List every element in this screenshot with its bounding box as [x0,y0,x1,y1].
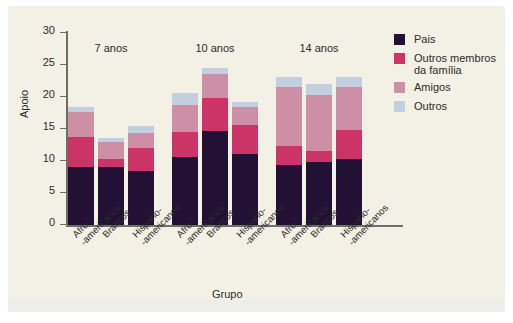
bar-segment [336,87,362,130]
bar-segment [276,146,302,165]
legend-label: Pais [414,33,506,45]
bar-stack [202,33,228,225]
y-axis-tick-label: 10 [43,152,55,164]
bar-segment [232,125,258,154]
y-axis-tick: 25 [60,64,67,65]
bar-stack [68,33,94,225]
legend-item: Amigos [394,81,506,95]
legend-item: Outros membrosda família [394,52,506,76]
legend-swatch [394,53,405,64]
bar-segment [202,98,228,131]
bar-segment [202,68,228,74]
y-axis-tick-label: 5 [49,184,55,196]
bar-segment [98,159,124,167]
figure-plate-shadow [8,300,505,312]
bar-stack [98,33,124,225]
y-axis-tick: 0 [60,224,67,225]
y-axis-title: Apoio [18,90,30,118]
bar-stack [172,33,198,225]
y-axis-tick-label: 25 [43,56,55,68]
bar-segment [98,142,124,159]
bar-segment [232,102,258,108]
bar-segment [276,77,302,87]
y-axis-tick-label: 30 [43,24,55,36]
bar-segment [276,87,302,146]
legend-label: Amigos [414,81,506,93]
y-axis-tick: 20 [60,96,67,97]
figure-container: Apoio Grupo 051015202530 7 anos10 anos14… [0,0,513,323]
y-axis-tick: 15 [60,128,67,129]
bar-segment [336,130,362,159]
bar-segment [128,126,154,133]
bar-segment [306,84,332,95]
bar-segment [172,105,198,133]
legend-swatch [394,34,405,45]
legend-label: Outros [414,100,506,112]
group-title: 7 anos [81,42,141,54]
plot-area: 051015202530 [67,33,397,225]
legend-item: Outros [394,100,506,114]
y-axis-tick-label: 15 [43,120,55,132]
bar-stack [276,33,302,225]
bar-segment [128,133,154,148]
legend-swatch [394,101,405,112]
bar-stack [232,33,258,225]
x-axis-title: Grupo [212,288,243,300]
legend-label-line2: da família [414,64,506,76]
bar-segment [68,112,94,137]
bar-segment [336,77,362,87]
group-title: 10 anos [185,42,245,54]
bar-segment [306,151,332,162]
bar-segment [172,93,198,105]
legend-label: Outros membros [414,52,506,64]
bar-stack [306,33,332,225]
group-title: 14 anos [289,42,349,54]
bar-stack [336,33,362,225]
legend-item: Pais [394,33,506,47]
bar-segment [306,95,332,151]
bar-segment [232,107,258,124]
bar-stack [128,33,154,225]
bar-segment [202,74,228,98]
y-axis-tick: 10 [60,160,67,161]
bar-segment [172,132,198,156]
y-axis-tick-label: 20 [43,88,55,100]
bar-segment [98,138,124,142]
chart-legend: PaisOutros membrosda famíliaAmigosOutros [394,33,506,119]
y-axis-tick: 30 [60,32,67,33]
bar-segment [68,107,94,111]
y-axis-tick-label: 0 [49,216,55,228]
y-axis-tick: 5 [60,192,67,193]
bar-segment [68,137,94,168]
legend-swatch [394,82,405,93]
bar-segment [128,148,154,172]
